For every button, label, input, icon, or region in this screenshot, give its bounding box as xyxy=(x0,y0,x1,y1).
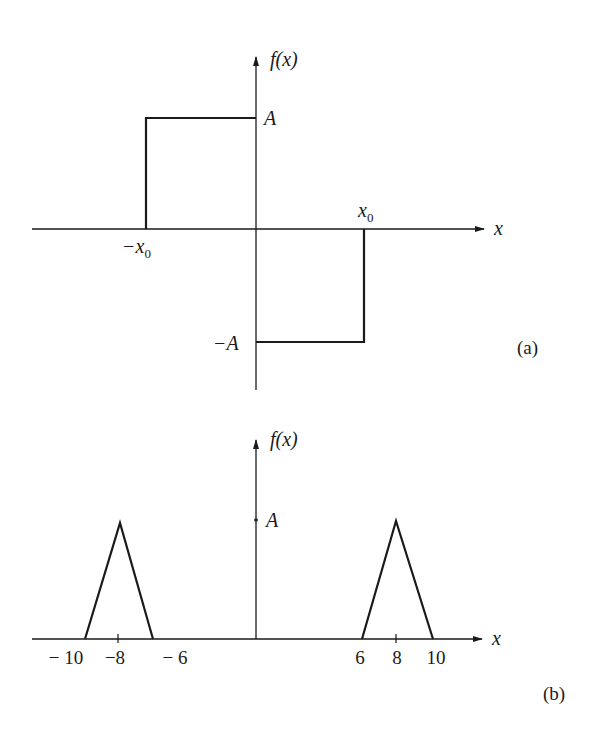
tick-label-minus-6: − 6 xyxy=(163,647,188,668)
triangle-right xyxy=(362,521,433,639)
caption-b: (b) xyxy=(543,683,565,705)
triangle-left xyxy=(85,523,153,639)
figure: f(x) x A −A −x0 x0 (a) f(x) x A − 10 −8 … xyxy=(0,0,598,731)
level-label-positive: A xyxy=(262,107,277,129)
tick-label-10: 10 xyxy=(427,647,446,668)
panel-b: f(x) x A − 10 −8 − 6 6 8 10 (b) xyxy=(32,428,565,705)
tick-label-8: 8 xyxy=(392,647,402,668)
y-axis-label-a: f(x) xyxy=(270,48,298,71)
level-label-negative: −A xyxy=(213,332,239,354)
tick-label-minus-8: −8 xyxy=(105,647,125,668)
x-axis-label-a: x xyxy=(493,217,503,239)
level-tick-a xyxy=(254,518,258,522)
panel-a: f(x) x A −A −x0 x0 (a) xyxy=(32,48,538,390)
tick-label-6: 6 xyxy=(355,647,365,668)
negative-pulse xyxy=(256,229,364,342)
level-label-a-b: A xyxy=(264,509,279,531)
tick-label-minus-10: − 10 xyxy=(49,647,83,668)
tick-label-x0: x0 xyxy=(357,199,373,225)
y-axis-label-b: f(x) xyxy=(270,428,298,451)
tick-label-minus-x0: −x0 xyxy=(122,235,151,261)
x-axis-label-b: x xyxy=(491,627,501,649)
caption-a: (a) xyxy=(517,337,538,359)
positive-pulse xyxy=(146,118,256,229)
